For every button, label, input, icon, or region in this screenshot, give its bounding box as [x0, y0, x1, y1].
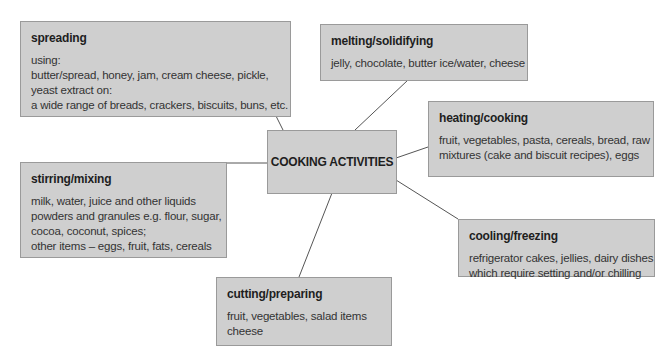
- node-text: cheese: [227, 324, 381, 339]
- node-cutting: cutting/preparing fruit, vegetables, sal…: [216, 277, 392, 346]
- node-title: cutting/preparing: [227, 287, 381, 301]
- node-text: which require setting and/or chilling: [469, 266, 644, 281]
- node-title: spreading: [31, 31, 280, 45]
- node-title: cooling/freezing: [469, 229, 644, 243]
- node-text: butter/spread, honey, jam, cream cheese,…: [31, 68, 280, 83]
- connector-spreading: [276, 116, 283, 130]
- node-title: heating/cooking: [439, 111, 643, 125]
- node-text: milk, water, juice and other liquids: [31, 194, 216, 209]
- node-melting: melting/solidifying jelly, chocolate, bu…: [320, 24, 528, 81]
- node-heating: heating/cooking fruit, vegetables, pasta…: [428, 101, 654, 177]
- node-text: fruit, vegetables, salad items: [227, 309, 381, 324]
- connector-cooling: [396, 180, 458, 219]
- node-text: a wide range of breads, crackers, biscui…: [31, 98, 280, 113]
- node-text: refrigerator cakes, jellies, dairy dishe…: [469, 251, 644, 266]
- node-text: powders and granules e.g. flour, sugar,: [31, 209, 216, 224]
- node-text: yeast extract on:: [31, 83, 280, 98]
- node-cooling: cooling/freezing refrigerator cakes, jel…: [458, 219, 655, 277]
- node-text: using:: [31, 53, 280, 68]
- node-spreading: spreading using: butter/spread, honey, j…: [20, 21, 291, 117]
- node-title: melting/solidifying: [331, 34, 517, 48]
- center-node: COOKING ACTIVITIES: [267, 130, 397, 194]
- node-text: fruit, vegetables, pasta, cereals, bread…: [439, 133, 643, 148]
- node-title: stirring/mixing: [31, 172, 216, 186]
- connector-heating: [396, 147, 428, 158]
- node-text: jelly, chocolate, butter ice/water, chee…: [331, 56, 517, 71]
- connector-melting: [355, 80, 408, 130]
- node-text: cocoa, coconut, spices;: [31, 224, 216, 239]
- node-stirring: stirring/mixing milk, water, juice and o…: [20, 162, 227, 258]
- node-text: mixtures (cake and biscuit recipes), egg…: [439, 148, 643, 163]
- connector-cutting: [299, 193, 332, 277]
- node-text: other items – eggs, fruit, fats, cereals: [31, 239, 216, 254]
